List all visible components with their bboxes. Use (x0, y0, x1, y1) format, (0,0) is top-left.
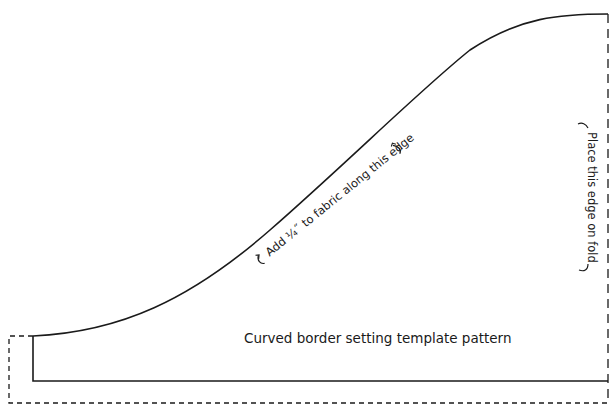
curve-note-group: Add ¼˝ to fabric along this edge (254, 131, 417, 266)
fold-note-group: Place this edge on fold (578, 123, 599, 271)
arrow-top-icon (578, 123, 588, 128)
curved-edge (33, 14, 608, 336)
template-diagram: Add ¼˝ to fabric along this edge Place t… (0, 0, 615, 415)
arrow-left-icon (256, 256, 265, 266)
curve-note-text: Add ¼˝ to fabric along this edge (263, 131, 417, 259)
pattern-title: Curved border setting template pattern (244, 330, 511, 346)
seam-allowance-dashed-outline (9, 336, 608, 403)
arrow-bottom-icon (579, 264, 588, 271)
fold-note-text: Place this edge on fold (585, 132, 599, 263)
